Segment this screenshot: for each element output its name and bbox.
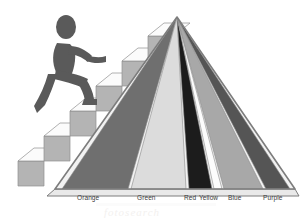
stair-riser-3 <box>70 111 96 136</box>
watermark-text: fotosearch <box>104 206 160 218</box>
figure-front-foot <box>82 99 97 105</box>
figure-forearm <box>86 56 106 63</box>
figure-head <box>56 15 76 39</box>
pyramid-stairs-illustration <box>0 0 305 224</box>
band-label-yellow: Yellow <box>199 194 218 202</box>
band-label-purple: Purple <box>263 194 282 202</box>
stair-riser-2 <box>44 136 70 161</box>
diagram-canvas: fotosearch OrangeGreenRedYellowBluePurpl… <box>0 0 305 224</box>
band-label-orange: Orange <box>77 194 99 202</box>
band-label-red: Red <box>184 194 196 202</box>
band-label-green: Green <box>137 194 156 202</box>
figure-back-leg <box>34 74 57 113</box>
band-label-blue: Blue <box>228 194 241 202</box>
stair-riser-1 <box>18 161 44 186</box>
